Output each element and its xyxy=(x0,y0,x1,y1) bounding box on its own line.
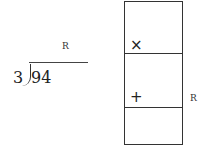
division-bracket xyxy=(22,64,31,86)
dividend: 94 xyxy=(31,70,51,86)
box-divider xyxy=(125,53,182,54)
division-bar xyxy=(29,62,88,63)
side-remainder-label: R xyxy=(190,94,197,103)
box-divider xyxy=(125,107,182,108)
multiply-symbol: × xyxy=(130,38,143,53)
calculation-box: × + xyxy=(124,1,183,145)
plus-symbol: + xyxy=(130,90,143,105)
remainder-label: R xyxy=(62,42,69,51)
